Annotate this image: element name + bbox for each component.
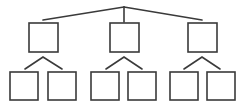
- level2-node: [128, 72, 156, 100]
- level1-node: [29, 23, 58, 52]
- level1-node: [188, 23, 217, 52]
- level1-node: [110, 23, 139, 52]
- tree-nodes: [10, 23, 235, 100]
- level2-node: [207, 72, 235, 100]
- level2-node: [10, 72, 38, 100]
- level2-node: [170, 72, 198, 100]
- root-edge: [124, 7, 202, 20]
- tree-diagram: [0, 0, 242, 106]
- level2-node: [48, 72, 76, 100]
- root-edge: [43, 7, 124, 20]
- branch-connector: [184, 57, 220, 69]
- branch-connector: [106, 57, 142, 69]
- level2-node: [91, 72, 119, 100]
- branch-connector: [25, 57, 62, 69]
